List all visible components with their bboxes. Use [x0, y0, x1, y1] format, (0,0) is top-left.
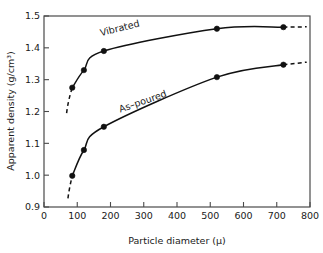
y-tick-label: 1.0 [25, 170, 40, 181]
x-tick-label: 400 [168, 210, 186, 221]
y-tick-label: 1.2 [25, 106, 40, 117]
x-axis-title: Particle diameter (μ) [128, 235, 226, 246]
data-point [70, 85, 75, 90]
x-axis-tick-labels: 0100200300400500600700800 [41, 210, 319, 221]
y-tick-label: 1.4 [25, 42, 40, 53]
x-tick-label: 200 [101, 210, 119, 221]
data-point [70, 173, 75, 178]
x-tick-label: 0 [41, 210, 47, 221]
data-point [214, 74, 219, 79]
data-point [101, 124, 106, 129]
y-tick-label: 1.1 [25, 138, 40, 149]
y-tick-label: 1.3 [25, 74, 40, 85]
data-point [81, 147, 86, 152]
x-tick-label: 700 [268, 210, 286, 221]
data-point [101, 48, 106, 53]
apparent-density-line-chart: 0100200300400500600700800 0.91.01.11.21.… [0, 0, 323, 253]
data-point [281, 24, 286, 29]
x-tick-label: 100 [68, 210, 86, 221]
data-point [214, 26, 219, 31]
y-tick-label: 1.5 [25, 10, 40, 21]
x-tick-label: 600 [234, 210, 252, 221]
x-tick-label: 500 [201, 210, 219, 221]
data-point [281, 62, 286, 67]
chart-container: 0100200300400500600700800 0.91.01.11.21.… [0, 0, 323, 253]
y-tick-label: 0.9 [25, 201, 40, 212]
x-tick-label: 300 [135, 210, 153, 221]
data-point [81, 67, 86, 72]
x-tick-label: 800 [301, 210, 319, 221]
y-axis-title: Apparent density (g/cm³) [5, 51, 16, 170]
